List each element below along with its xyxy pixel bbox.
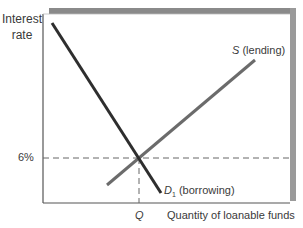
x-axis-label: Quantity of loanable funds	[167, 209, 295, 221]
y-axis-label: Interest rate	[1, 11, 43, 43]
demand-symbol: D	[164, 184, 172, 196]
frame-shadow-right	[290, 8, 296, 201]
y-axis-label-line1: Interest	[1, 11, 43, 27]
demand-desc: (borrowing)	[179, 184, 235, 196]
supply-symbol: S	[232, 44, 239, 56]
frame-shadow-top	[49, 8, 296, 14]
supply-label: S (lending)	[232, 44, 285, 56]
supply-desc: (lending)	[242, 44, 285, 56]
rate-tick-label: 6%	[18, 151, 34, 163]
plot-area	[43, 14, 290, 203]
demand-label: D1 (borrowing)	[164, 184, 235, 198]
demand-subscript: 1	[172, 191, 176, 198]
y-axis-label-line2: rate	[1, 27, 43, 43]
loanable-funds-chart	[0, 0, 303, 228]
quantity-tick-label: Q	[135, 209, 144, 221]
